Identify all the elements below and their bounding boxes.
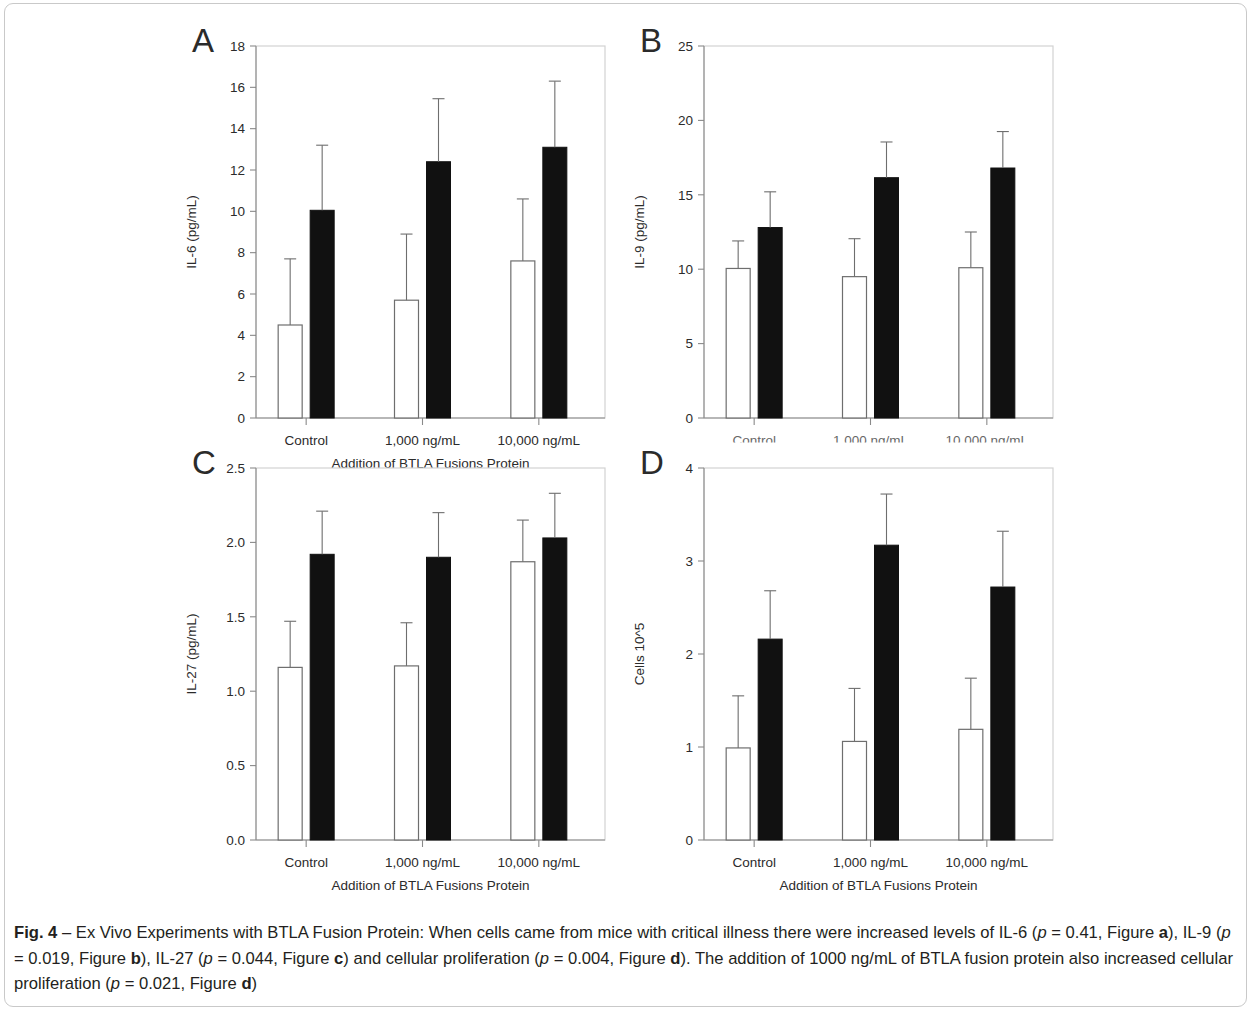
bar-d-open-0 <box>726 748 750 840</box>
y-tick-label-a-0: 0 <box>237 411 245 426</box>
x-tick-label-c-2: 10,000 ng/mL <box>498 855 581 870</box>
y-tick-label-b-1: 5 <box>685 336 693 351</box>
bar-d-filled-0 <box>758 639 782 840</box>
figure-label: Fig. 4 <box>14 923 57 942</box>
y-tick-label-a-3: 6 <box>237 287 245 302</box>
p-value-1: = 0.41, <box>1047 923 1103 942</box>
x-tick-label-d-1: 1,000 ng/mL <box>833 855 909 870</box>
chart-panels-container: A024681012141618IL-6 (pg/mL)Control1,000… <box>0 0 1253 905</box>
caption-text-4: ), IL-27 ( <box>141 949 204 968</box>
caption-text-7: ) <box>252 974 258 993</box>
chart-svg-d: D01234Cells 10^5Control1,000 ng/mL10,000… <box>618 440 1088 860</box>
p-value-2: = 0.019, Figure <box>14 949 131 968</box>
p-value-var-2: p <box>1221 923 1230 942</box>
chart-panel-c: C0.00.51.01.52.02.5IL-27 (pg/mL)Control1… <box>170 440 640 860</box>
bar-c-filled-2 <box>543 538 567 840</box>
p-value-var-1: p <box>1037 923 1046 942</box>
y-tick-label-c-1: 0.5 <box>226 758 245 773</box>
bar-b-filled-1 <box>875 178 899 418</box>
bar-d-open-2 <box>959 729 983 840</box>
y-tick-label-c-4: 2.0 <box>226 535 245 550</box>
caption-text-3: ), IL-9 ( <box>1168 923 1221 942</box>
chart-panel-a: A024681012141618IL-6 (pg/mL)Control1,000… <box>170 18 640 438</box>
bar-b-filled-0 <box>758 228 782 418</box>
figure-ref-c: c <box>334 949 343 968</box>
bar-c-open-0 <box>278 667 302 840</box>
x-axis-title-c: Addition of BTLA Fusions Protein <box>331 878 529 893</box>
p-value-var-5: p <box>111 974 120 993</box>
y-tick-label-d-2: 2 <box>685 647 693 662</box>
chart-svg-c: C0.00.51.01.52.02.5IL-27 (pg/mL)Control1… <box>170 440 640 860</box>
figure-ref-a: a <box>1159 923 1168 942</box>
x-axis-title-d: Addition of BTLA Fusions Protein <box>779 878 977 893</box>
bar-d-filled-1 <box>875 545 899 840</box>
figure-ref-b: b <box>131 949 141 968</box>
bar-a-open-0 <box>278 325 302 418</box>
caption-dash-glyph: – <box>62 923 71 942</box>
y-tick-label-a-8: 16 <box>230 80 245 95</box>
chart-panel-d: D01234Cells 10^5Control1,000 ng/mL10,000… <box>618 440 1088 860</box>
bar-d-open-1 <box>843 741 867 840</box>
p-value-var-4: p <box>540 949 549 968</box>
y-axis-title-d: Cells 10^5 <box>632 623 647 686</box>
x-tick-label-d-2: 10,000 ng/mL <box>946 855 1029 870</box>
y-axis-title-b: IL-9 (pg/mL) <box>632 195 647 269</box>
bar-a-filled-1 <box>427 162 451 418</box>
x-tick-label-c-0: Control <box>284 855 328 870</box>
y-tick-label-a-2: 4 <box>237 328 245 343</box>
panel-letter-b: B <box>640 22 662 59</box>
y-tick-label-a-1: 2 <box>237 369 245 384</box>
p-value-4: = 0.004, Figure <box>549 949 670 968</box>
bar-b-open-2 <box>959 268 983 418</box>
y-tick-label-b-3: 15 <box>678 188 693 203</box>
bar-c-filled-1 <box>427 557 451 840</box>
caption-text-2: Figure <box>1107 923 1159 942</box>
y-tick-label-a-9: 18 <box>230 39 245 54</box>
bar-b-filled-2 <box>991 168 1015 418</box>
bar-d-filled-2 <box>991 587 1015 840</box>
caption-text-5: ) and cellular proliferation ( <box>343 949 539 968</box>
y-tick-label-a-4: 8 <box>237 245 245 260</box>
p-value-5: = 0.021, Figure <box>120 974 241 993</box>
bar-b-open-0 <box>726 268 750 418</box>
figure-caption: Fig. 4 – Ex Vivo Experiments with BTLA F… <box>14 920 1236 997</box>
p-value-var-3: p <box>204 949 213 968</box>
bar-c-open-2 <box>511 562 535 840</box>
y-axis-title-a: IL-6 (pg/mL) <box>184 195 199 269</box>
bar-a-open-2 <box>511 261 535 418</box>
bar-b-open-1 <box>843 277 867 418</box>
panel-letter-d: D <box>640 444 664 481</box>
x-tick-labels-d: Control1,000 ng/mL10,000 ng/mL <box>732 855 1028 870</box>
y-tick-label-b-2: 10 <box>678 262 693 277</box>
x-tick-label-c-1: 1,000 ng/mL <box>385 855 461 870</box>
y-tick-label-b-4: 20 <box>678 113 693 128</box>
bar-a-filled-0 <box>310 210 334 418</box>
bar-a-filled-2 <box>543 147 567 418</box>
bar-c-filled-0 <box>310 554 334 840</box>
y-tick-label-c-5: 2.5 <box>226 461 245 476</box>
y-tick-label-b-0: 0 <box>685 411 693 426</box>
y-tick-label-a-7: 14 <box>230 121 246 136</box>
y-tick-label-c-3: 1.5 <box>226 610 245 625</box>
figure-ref-d2: d <box>241 974 251 993</box>
caption-text-1: Ex Vivo Experiments with BTLA Fusion Pro… <box>76 923 1038 942</box>
figure-ref-d: d <box>670 949 680 968</box>
y-tick-label-c-2: 1.0 <box>226 684 245 699</box>
x-tick-label-d-0: Control <box>732 855 776 870</box>
panel-letter-c: C <box>192 444 216 481</box>
figure-root: A024681012141618IL-6 (pg/mL)Control1,000… <box>0 0 1253 1013</box>
y-axis-title-c: IL-27 (pg/mL) <box>184 613 199 694</box>
y-tick-label-a-6: 12 <box>230 163 245 178</box>
p-value-3: = 0.044, Figure <box>213 949 334 968</box>
panel-letter-a: A <box>192 22 214 59</box>
y-tick-label-d-0: 0 <box>685 833 693 848</box>
y-tick-label-d-4: 4 <box>685 461 693 476</box>
chart-svg-b: B0510152025IL-9 (pg/mL)Control1,000 ng/m… <box>618 18 1088 438</box>
y-tick-label-c-0: 0.0 <box>226 833 245 848</box>
y-tick-label-d-1: 1 <box>685 740 693 755</box>
y-tick-label-b-5: 25 <box>678 39 693 54</box>
chart-panel-b: B0510152025IL-9 (pg/mL)Control1,000 ng/m… <box>618 18 1088 438</box>
bar-a-open-1 <box>395 300 419 418</box>
bar-c-open-1 <box>395 666 419 840</box>
y-tick-label-a-5: 10 <box>230 204 245 219</box>
